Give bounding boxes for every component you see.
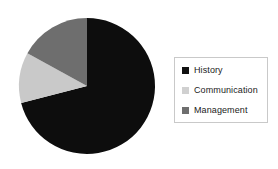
legend-item-history[interactable]: History (182, 63, 261, 77)
legend-item-communication[interactable]: Communication (182, 83, 261, 97)
legend-swatch-management (182, 107, 189, 114)
chart-legend: History Communication Management (174, 57, 268, 123)
pie-slices (19, 18, 155, 154)
legend-item-management[interactable]: Management (182, 103, 261, 117)
legend-label-history: History (194, 63, 223, 77)
legend-label-management: Management (194, 103, 248, 117)
legend-label-communication: Communication (194, 83, 258, 97)
pie-chart: History Communication Management (0, 0, 278, 169)
legend-swatch-communication (182, 87, 189, 94)
legend-swatch-history (182, 67, 189, 74)
